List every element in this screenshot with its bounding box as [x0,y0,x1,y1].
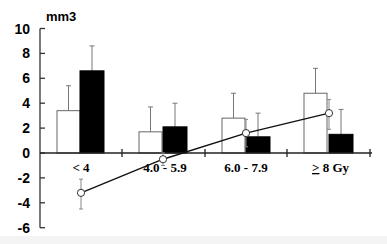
y-tick-label: -2 [18,170,31,186]
white-bar [139,132,162,153]
y-tick-labels: 1086420-2-4-6 [14,21,30,236]
category-label: 6.0 - 7.9 [224,160,268,175]
y-tick-label: 0 [22,145,30,161]
y-tick-label: -4 [18,195,31,211]
y-tick-label: 8 [22,45,30,61]
open-circle-marker [77,189,84,196]
y-tick-label: 2 [22,120,30,136]
y-tick-label: -6 [18,220,31,236]
open-circle-marker [325,110,332,117]
y-tick-label: 10 [14,21,30,37]
black-bar [246,137,270,153]
y-axis-unit-label: mm3 [46,9,76,24]
y-tick-label: 4 [22,95,30,111]
white-bar [222,118,245,153]
white-bar [304,93,327,153]
bars [57,46,353,153]
black-bar [329,134,353,153]
open-circle-marker [159,156,166,163]
category-value: 8 Gy [319,160,349,175]
y-axis [40,29,45,228]
open-circle-marker [242,129,249,136]
black-bar [163,127,187,153]
black-bar [80,71,104,153]
category-labels: < 44.0 - 5.96.0 - 7.9> 8 Gy [72,160,349,175]
gte-symbol: > [312,160,319,175]
y-tick-label: 6 [22,70,30,86]
chart: 1086420-2-4-6 mm3 < 44.0 - 5.96.0 - 7.9>… [0,0,387,244]
category-label: > 8 Gy [312,160,350,175]
category-label: < 4 [72,160,90,175]
white-bar [57,111,80,153]
footer-band [0,236,387,244]
